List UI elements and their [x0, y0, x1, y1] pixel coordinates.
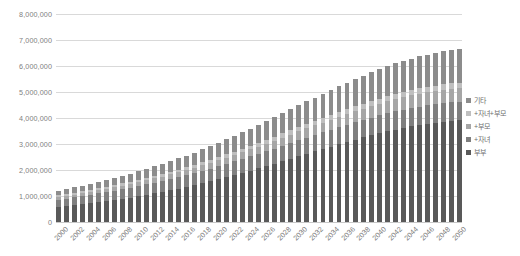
- bar-column[interactable]: [136, 14, 141, 222]
- x-axis-tick-label: 2024: [243, 225, 261, 243]
- bar-column[interactable]: [128, 14, 133, 222]
- bar-segment: [64, 206, 69, 222]
- bar-column[interactable]: [433, 14, 438, 222]
- bar-column[interactable]: [288, 14, 293, 222]
- x-axis-tick-label: 2010: [132, 225, 150, 243]
- bar-segment: [184, 187, 189, 222]
- bar-segment: [216, 166, 221, 179]
- bar-column[interactable]: [449, 14, 454, 222]
- bar-segment: [296, 105, 301, 127]
- bar-column[interactable]: [80, 14, 85, 222]
- bar-segment: [80, 204, 85, 222]
- bar-segment: [417, 94, 422, 107]
- bar-column[interactable]: [216, 14, 221, 222]
- bar-segment: [232, 136, 237, 152]
- bar-column[interactable]: [168, 14, 173, 222]
- x-axis-tick-label: 2006: [100, 225, 118, 243]
- bar-column[interactable]: [248, 14, 253, 222]
- bar-column[interactable]: [104, 14, 109, 222]
- bar-column[interactable]: [192, 14, 197, 222]
- bar-column[interactable]: [176, 14, 181, 222]
- legend-item[interactable]: +자녀+부모: [466, 107, 520, 119]
- bar-segment: [160, 164, 165, 174]
- bar-segment: [104, 192, 109, 201]
- bar-column[interactable]: [313, 14, 318, 222]
- bar-column[interactable]: [184, 14, 189, 222]
- bar-column[interactable]: [296, 14, 301, 222]
- legend-swatch-icon: [466, 150, 471, 155]
- bar-segment: [104, 180, 109, 187]
- bar-column[interactable]: [88, 14, 93, 222]
- bar-column[interactable]: [120, 14, 125, 222]
- bar-column[interactable]: [304, 14, 309, 222]
- bar-segment: [385, 101, 390, 113]
- x-axis: 2000200220042006200820102012201420162018…: [56, 222, 462, 256]
- bar-column[interactable]: [457, 14, 462, 222]
- bar-column[interactable]: [393, 14, 398, 222]
- bar-column[interactable]: [345, 14, 350, 222]
- bar-segment: [104, 201, 109, 222]
- bar-segment: [449, 89, 454, 102]
- bar-segment: [128, 188, 133, 198]
- bar-segment: [136, 196, 141, 222]
- bar-column[interactable]: [256, 14, 261, 222]
- bar-column[interactable]: [72, 14, 77, 222]
- bar-column[interactable]: [272, 14, 277, 222]
- bar-column[interactable]: [280, 14, 285, 222]
- bar-column[interactable]: [112, 14, 117, 222]
- bar-column[interactable]: [232, 14, 237, 222]
- bar-segment: [224, 139, 229, 154]
- bar-column[interactable]: [321, 14, 326, 222]
- bar-column[interactable]: [152, 14, 157, 222]
- bar-segment: [280, 138, 285, 146]
- y-axis-tick-label: 8,000,000: [19, 10, 52, 19]
- bar-segment: [112, 191, 117, 200]
- bar-column[interactable]: [377, 14, 382, 222]
- bar-segment: [192, 173, 197, 185]
- bar-column[interactable]: [329, 14, 334, 222]
- x-axis-tick-label: 2004: [84, 225, 102, 243]
- bar-column[interactable]: [240, 14, 245, 222]
- bar-column[interactable]: [385, 14, 390, 222]
- bar-segment: [232, 175, 237, 222]
- bar-segment: [393, 111, 398, 129]
- legend-item-label: 부부: [474, 147, 486, 157]
- bar-column[interactable]: [96, 14, 101, 222]
- bar-segment: [329, 90, 334, 115]
- legend-item[interactable]: 부부: [466, 146, 520, 158]
- bar-segment: [168, 190, 173, 222]
- bar-column[interactable]: [401, 14, 406, 222]
- bar-column[interactable]: [264, 14, 269, 222]
- bar-column[interactable]: [353, 14, 358, 222]
- bar-segment: [128, 174, 133, 182]
- bar-column[interactable]: [56, 14, 61, 222]
- bar-column[interactable]: [224, 14, 229, 222]
- bar-segment: [272, 117, 277, 136]
- bar-column[interactable]: [441, 14, 446, 222]
- bar-segment: [409, 95, 414, 108]
- bar-column[interactable]: [361, 14, 366, 222]
- legend-item[interactable]: +자녀: [466, 133, 520, 145]
- bar-segment: [337, 117, 342, 127]
- legend-item[interactable]: +부모: [466, 120, 520, 132]
- bar-column[interactable]: [64, 14, 69, 222]
- bar-column[interactable]: [409, 14, 414, 222]
- bar-column[interactable]: [369, 14, 374, 222]
- bar-segment: [409, 126, 414, 222]
- bar-column[interactable]: [144, 14, 149, 222]
- bar-segment: [369, 72, 374, 101]
- bar-column[interactable]: [160, 14, 165, 222]
- bar-column[interactable]: [337, 14, 342, 222]
- bar-column[interactable]: [417, 14, 422, 222]
- bar-segment: [393, 130, 398, 222]
- y-axis-tick-label: 0: [48, 218, 52, 227]
- x-axis-tick-label: 2032: [307, 225, 325, 243]
- bar-column[interactable]: [208, 14, 213, 222]
- bar-segment: [56, 207, 61, 222]
- x-axis-tick-label: 2002: [68, 225, 86, 243]
- bar-column[interactable]: [200, 14, 205, 222]
- legend-item[interactable]: 기타: [466, 94, 520, 106]
- bar-segment: [417, 107, 422, 125]
- bar-segment: [313, 151, 318, 222]
- bar-column[interactable]: [425, 14, 430, 222]
